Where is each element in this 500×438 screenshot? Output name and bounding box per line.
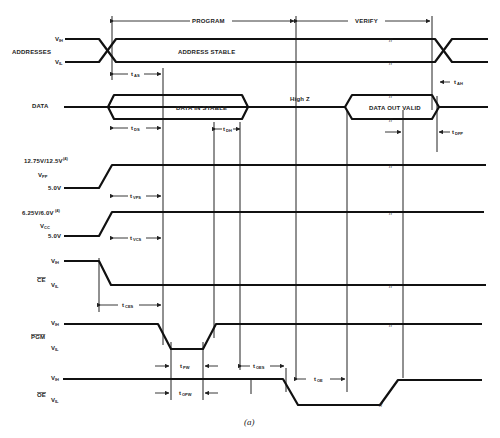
svg-text:IL: IL [55,347,59,352]
svg-text:CE: CE [37,277,46,283]
svg-text:t: t [131,71,133,77]
figure-caption: (a) [244,417,255,427]
svg-text:5.0V: 5.0V [48,233,61,239]
t-ces-marker: tCES [101,302,161,309]
data-label: DATA [32,103,49,109]
ce-signal: VIH CE VIL // [37,258,486,289]
data-out-valid-label: DATA OUT VALID [369,105,421,111]
addresses-signal: ADDRESSES VIH VIL ADDRESS STABLE // // [12,36,488,66]
svg-text:IH: IH [59,38,63,43]
svg-text:IL: IL [55,284,59,289]
svg-text://: // [389,93,393,99]
program-phase-label: PROGRAM [192,18,225,24]
svg-text:AS: AS [134,73,140,78]
high-z-label: High Z [290,96,310,102]
vpp-signal: 12.75V/12.5V(4) VPP 5.0V // [24,156,486,191]
t-opw-marker: tOPW [155,390,218,397]
data-signal: DATA DATA IN STABLE High Z DATA OUT VALI… [32,93,488,123]
svg-text:IH: IH [55,260,59,265]
svg-text://: // [389,210,393,216]
oe-signal: VIH OE VIL // [37,375,482,408]
t-dfp-marker: tDFP [439,129,463,136]
addresses-label: ADDRESSES [12,49,51,55]
svg-text:t: t [223,126,225,132]
svg-text:PP: PP [42,174,48,179]
vcc-signal: 6.25V/6.0V(4) VCC 5.0V // [22,208,484,239]
t-oes-marker: tOES [242,363,284,370]
svg-text:OPW: OPW [182,392,192,397]
timing-diagram: PROGRAM VERIFY ADDRESSES VIH VIL ADDRESS… [0,0,500,438]
svg-text:IL: IL [59,61,63,66]
verify-phase-label: VERIFY [355,18,378,24]
svg-text:t: t [179,390,181,396]
svg-text:t: t [122,302,124,308]
svg-text:VPS: VPS [133,195,141,200]
svg-text:t: t [130,193,132,199]
svg-text:AH: AH [457,81,463,86]
svg-text://: // [389,163,393,169]
svg-text:IL: IL [55,399,59,404]
svg-text:OES: OES [256,365,265,370]
phase-bar: PROGRAM VERIFY [114,18,430,24]
svg-text://: // [389,322,393,328]
data-in-stable-label: DATA IN STABLE [176,105,227,111]
svg-text:t: t [314,376,316,382]
svg-text:12.75V/12.5V: 12.75V/12.5V [24,158,63,164]
svg-text:OE: OE [37,392,46,398]
svg-text:CC: CC [44,225,50,230]
svg-text:(4): (4) [63,156,69,161]
svg-text:t: t [452,129,454,135]
t-oe-marker: tOE [298,376,345,383]
svg-text:DH: DH [226,128,232,133]
t-vps-marker: tVPS [114,193,161,200]
svg-text://: // [389,117,393,123]
t-vcs-marker: tVCS [114,235,161,242]
svg-text://: // [379,402,383,408]
t-as-marker: tAS [114,71,161,78]
svg-text:t: t [454,79,456,85]
svg-text:PGM: PGM [31,334,45,340]
svg-text:OE: OE [317,378,323,383]
pgm-signal: VIH PGM VIL // [31,320,482,352]
svg-text:t: t [131,125,133,131]
svg-text://: // [389,283,393,289]
t-ah-marker: tAH [440,79,463,86]
svg-text:t: t [180,363,182,369]
address-stable-label: ADDRESS STABLE [178,49,235,55]
t-dh-marker: tDH [216,126,240,133]
svg-text:CES: CES [125,304,134,309]
svg-text://: // [389,37,393,43]
svg-text://: // [389,60,393,66]
t-ds-marker: tDS [114,125,161,132]
svg-text:IH: IH [55,377,59,382]
t-pw-marker: tPW [155,363,218,370]
svg-text:VCS: VCS [133,237,142,242]
svg-text:t: t [253,363,255,369]
svg-text:6.25V/6.0V: 6.25V/6.0V [22,210,54,216]
svg-text:(4): (4) [55,208,61,213]
svg-text:DFP: DFP [455,131,463,136]
svg-text:PW: PW [183,365,190,370]
svg-text:IH: IH [55,322,59,327]
svg-text:DS: DS [134,127,140,132]
svg-text:t: t [130,235,132,241]
svg-text:5.0V: 5.0V [48,185,61,191]
